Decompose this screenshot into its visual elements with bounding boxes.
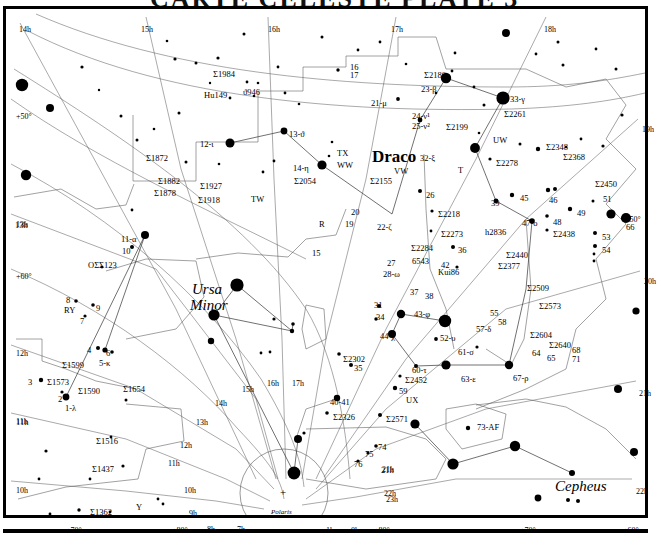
star-label: 23-β [421, 85, 437, 94]
star-label: 67-ρ [513, 374, 529, 383]
star-label: Σ2284 [411, 244, 433, 253]
star-label: 76 [354, 460, 363, 469]
star-label: UX [406, 396, 418, 405]
star-label: 37 [410, 288, 419, 297]
star-marker [536, 147, 540, 151]
star-label: TX [337, 149, 348, 158]
star-marker [91, 303, 95, 307]
star-label: 3 [28, 378, 32, 387]
star-label: 12-ι [200, 140, 214, 149]
star-marker [39, 378, 43, 382]
star-marker [545, 214, 549, 218]
ra-hour-label: 11h [16, 418, 28, 426]
star-label: 10 [122, 247, 131, 256]
star-label: Y [136, 503, 142, 512]
star-marker [16, 79, 28, 91]
star-label: 31 [374, 301, 383, 310]
star-label: RY [64, 306, 75, 315]
star-marker [77, 508, 80, 511]
star-marker [44, 449, 47, 452]
star-marker [439, 315, 451, 327]
star-marker [441, 360, 450, 369]
star-marker [89, 478, 92, 481]
star-label: 13-ϑ [289, 130, 305, 139]
ra-hour-label: 15h [141, 26, 153, 34]
star-marker [510, 441, 520, 451]
star-marker [466, 426, 470, 430]
star-marker [226, 139, 235, 148]
star-marker [505, 361, 513, 369]
star-marker [405, 63, 408, 66]
star-marker [229, 97, 232, 100]
star-marker [328, 155, 331, 158]
declination-label: +50° [16, 113, 32, 121]
star-marker [291, 322, 295, 326]
ra-hour-label: 11h [168, 460, 180, 468]
star-label: 5-κ [99, 359, 110, 368]
star-label: UW [493, 136, 507, 145]
ra-hour-label: 13h [196, 419, 208, 427]
star-label: Σ1654 [123, 385, 145, 394]
star-marker [209, 82, 211, 84]
bottom-rule [3, 529, 648, 533]
star-marker [473, 86, 476, 89]
star-marker [519, 143, 522, 146]
star-label: 53 [602, 233, 611, 242]
star-marker [208, 338, 214, 344]
star-marker [566, 498, 570, 502]
star-marker [576, 499, 580, 503]
star-marker [502, 29, 510, 37]
star-label: Σ2348 [546, 143, 568, 152]
star-label: Σ2377 [498, 262, 520, 271]
star-label: Σ2438 [553, 230, 575, 239]
star-marker [434, 337, 438, 341]
star-marker [277, 66, 280, 69]
star-label: 26 [426, 191, 435, 200]
star-label: 27 [387, 259, 396, 268]
star-marker [569, 470, 575, 476]
star-label: 20 [351, 208, 360, 217]
star-marker [125, 399, 128, 402]
star-marker [378, 413, 382, 417]
star-marker [121, 464, 124, 467]
star-marker [535, 53, 538, 56]
star-marker [131, 209, 134, 212]
ra-hour-label: 10h [16, 487, 28, 495]
star-label: Σ2180 [424, 71, 446, 80]
star-label: Σ2571 [386, 415, 408, 424]
star-marker [379, 41, 382, 44]
star-marker [592, 200, 595, 203]
star-marker [593, 244, 597, 248]
star-marker [230, 278, 243, 291]
star-marker [562, 64, 565, 67]
star-marker [593, 260, 596, 263]
star-marker [615, 68, 618, 71]
star-label: 66 [626, 223, 635, 232]
ra-hour-label: 16h [267, 380, 279, 388]
star-marker [593, 253, 596, 256]
star-marker [110, 350, 114, 354]
ra-hour-label: 21h [639, 390, 651, 398]
star-marker [595, 48, 598, 51]
star-label: Σ1878 [154, 189, 176, 198]
star-label: 74 [378, 443, 387, 452]
constellation-name: Minor [190, 298, 228, 313]
star-marker [195, 62, 198, 65]
ra-hour-label: 14h [19, 26, 31, 34]
star-marker [216, 56, 219, 59]
ra-hour-label: 21h [382, 466, 394, 474]
star-label: 64 [532, 349, 541, 358]
star-marker [157, 498, 160, 501]
star-label: Σ2326 [333, 413, 355, 422]
star-marker [357, 49, 360, 52]
star-marker [470, 143, 480, 153]
star-marker [601, 144, 604, 147]
declination-label: +50° [625, 216, 641, 224]
star-label: 49 [577, 209, 586, 218]
star-marker [478, 132, 481, 135]
star-label: Kui86 [438, 268, 459, 277]
star-label: Σ1927 [200, 182, 222, 191]
star-marker [141, 231, 149, 239]
star-label: 36 [458, 246, 467, 255]
star-label: Σ2440 [506, 251, 528, 260]
